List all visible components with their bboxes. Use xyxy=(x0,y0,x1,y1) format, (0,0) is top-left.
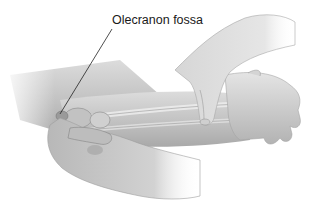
label-olecranon-fossa: Olecranon fossa xyxy=(112,13,203,27)
patient-hand xyxy=(225,70,300,144)
anatomical-illustration: Olecranon fossa xyxy=(0,0,315,208)
